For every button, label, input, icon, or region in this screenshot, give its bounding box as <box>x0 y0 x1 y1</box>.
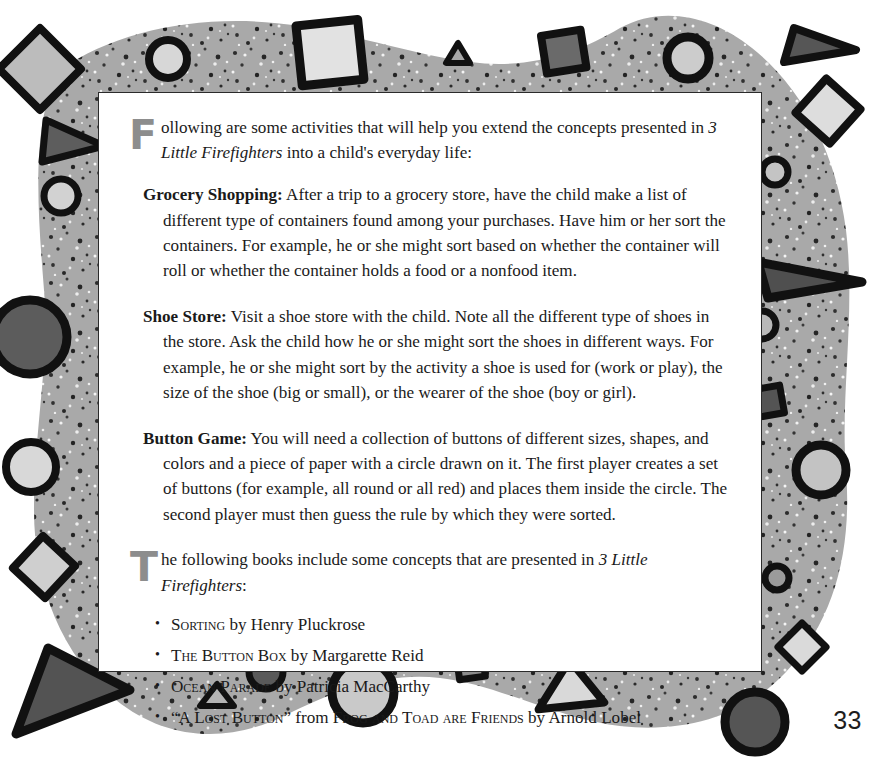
book-page: Following are some activities that will … <box>0 0 894 763</box>
activity-lead: Shoe Store: <box>143 307 227 326</box>
activity-button-game: Button Game: You will need a collection … <box>143 426 729 527</box>
page-number: 33 <box>833 706 862 735</box>
book-title: Ocean Parade <box>171 677 271 696</box>
list-item: •Ocean Parade by Patricia MacCarthy <box>171 674 729 701</box>
shape-circle-light <box>667 37 709 79</box>
shape-square-light <box>296 20 364 86</box>
list-item: •Sorting by Henry Pluckrose <box>171 612 729 639</box>
book-extra-byline: by Arnold Lobel <box>524 708 641 727</box>
shape-circle <box>765 566 789 590</box>
shape-diamond <box>796 79 861 144</box>
shape-diamond <box>778 623 826 671</box>
bullet-icon: • <box>155 704 160 731</box>
intro-text-before: ollowing are some activities that will h… <box>161 118 708 137</box>
activity-shoe-store: Shoe Store: Visit a shoe store with the … <box>143 304 729 405</box>
activity-lead: Grocery Shopping: <box>143 185 283 204</box>
shape-square-dark <box>541 30 586 74</box>
intro-text-after: into a child's everyday life: <box>282 143 472 162</box>
book-title: “A Lost Button” <box>171 708 291 727</box>
bullet-icon: • <box>155 673 160 700</box>
dropcap-t: T <box>130 548 158 586</box>
shape-triangle <box>446 43 470 63</box>
book-list: •Sorting by Henry Pluckrose •The Button … <box>129 612 729 732</box>
bullet-icon: • <box>155 642 160 669</box>
shape-circle-light <box>796 445 846 495</box>
books-intro-paragraph: The following books include some concept… <box>129 547 729 597</box>
shape-circle-dark <box>725 692 785 752</box>
book-title: Sorting <box>171 615 225 634</box>
shape-circle-dark <box>0 300 67 374</box>
shape-triangle-dark <box>42 120 104 162</box>
shape-circle-light <box>149 40 187 78</box>
shape-diamond <box>13 536 75 598</box>
book-byline: from <box>291 708 333 727</box>
book-byline: by Henry Pluckrose <box>225 615 365 634</box>
intro-paragraph: Following are some activities that will … <box>129 115 729 165</box>
book-byline: by Margarette Reid <box>287 646 424 665</box>
book-byline: by Patricia MacCarthy <box>271 677 430 696</box>
dropcap-f: F <box>129 116 157 154</box>
books-intro-text-before: he following books include some concepts… <box>161 550 599 569</box>
shape-triangle-dark <box>758 262 862 298</box>
shape-circle-light <box>6 442 56 492</box>
list-item: •The Button Box by Margarette Reid <box>171 643 729 670</box>
shape-diamond <box>0 28 81 110</box>
bullet-icon: • <box>155 611 160 638</box>
shape-circle-light <box>762 159 788 185</box>
activity-grocery-shopping: Grocery Shopping: After a trip to a groc… <box>143 182 729 283</box>
panel-inner: Following are some activities that will … <box>129 115 729 736</box>
shape-circle-light <box>44 179 78 213</box>
list-item: •“A Lost Button” from Frog and Toad are … <box>171 705 729 732</box>
shape-triangle-dark <box>784 28 856 62</box>
books-intro-text-after: : <box>242 576 247 595</box>
content-panel: Following are some activities that will … <box>98 92 762 672</box>
book-extra-title: Frog and Toad are Friends <box>333 708 524 727</box>
activity-body: Visit a shoe store with the child. Note … <box>163 307 723 402</box>
activity-body: You will need a collection of buttons of… <box>163 429 727 524</box>
activity-lead: Button Game: <box>143 429 247 448</box>
book-title: The Button Box <box>171 646 287 665</box>
